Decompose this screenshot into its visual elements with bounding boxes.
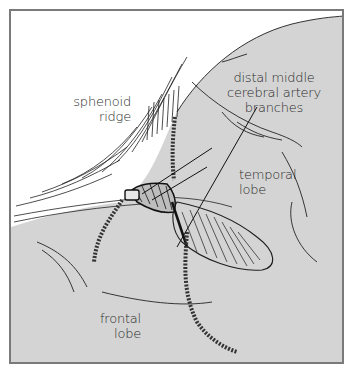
- illustration-frame: sphenoid ridge distal middle cerebral ar…: [9, 9, 344, 364]
- label-frontal-lobe: frontal lobe: [85, 311, 141, 341]
- label-line: cerebral artery: [219, 85, 329, 100]
- label-line: sphenoid: [51, 94, 131, 109]
- label-line: ridge: [51, 109, 131, 124]
- label-line: lobe: [85, 326, 141, 341]
- label-distal-mca-branches: distal middle cerebral artery branches: [219, 70, 329, 115]
- label-line: frontal: [85, 311, 141, 326]
- label-sphenoid-ridge: sphenoid ridge: [51, 94, 131, 124]
- label-line: temporal: [239, 167, 296, 182]
- label-line: distal middle: [219, 70, 329, 85]
- label-line: lobe: [239, 182, 296, 197]
- label-temporal-lobe: temporal lobe: [239, 167, 296, 197]
- label-line: branches: [219, 100, 329, 115]
